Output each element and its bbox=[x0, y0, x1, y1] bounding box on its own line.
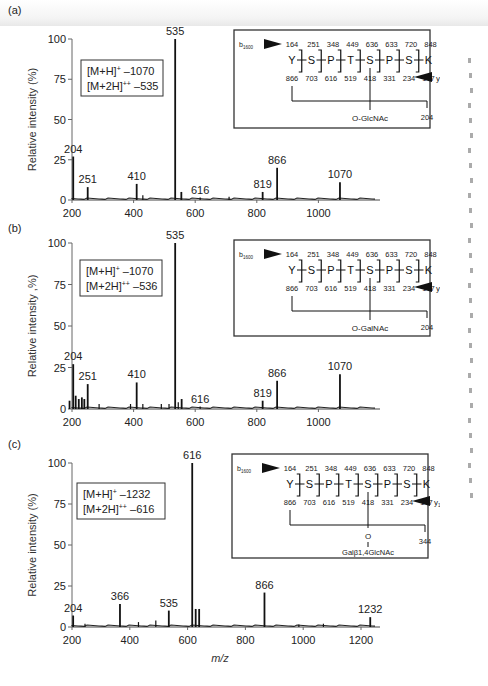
residue: S bbox=[364, 478, 371, 490]
b-ion-mass: 633 bbox=[383, 464, 396, 473]
y-series-label: y1600 bbox=[434, 498, 440, 508]
peak-label: 866 bbox=[255, 579, 273, 591]
residue: P bbox=[384, 478, 391, 490]
b-ion-mass: 636 bbox=[364, 464, 377, 473]
b-ion-mass: 251 bbox=[305, 464, 318, 473]
glycan-name: Galβ1,4GlcNAc bbox=[342, 548, 394, 557]
y-tick-label: 0 bbox=[60, 621, 66, 633]
x-tick-label: 400 bbox=[121, 634, 139, 646]
residue: Y bbox=[286, 478, 294, 490]
peak-label: 366 bbox=[111, 590, 129, 602]
residue: T bbox=[345, 478, 352, 490]
x-tick-label: 1000 bbox=[291, 634, 315, 646]
fragmentation-scheme: b1600Y164866S251703P348616T449519S636418… bbox=[232, 454, 435, 558]
baseline-trace bbox=[72, 625, 375, 626]
residue: K bbox=[423, 478, 431, 490]
y-ion-mass: 519 bbox=[342, 498, 355, 507]
residue: S bbox=[403, 478, 410, 490]
b-ion-mass: 348 bbox=[325, 464, 338, 473]
x-axis-label: m/z bbox=[211, 652, 229, 664]
y-tick-label: 75 bbox=[54, 498, 66, 510]
y-ion-mass: 703 bbox=[303, 498, 316, 507]
peak-label: 535 bbox=[160, 597, 178, 609]
y-ion-mass: 331 bbox=[381, 498, 394, 507]
b-ion-mass: 164 bbox=[284, 464, 297, 473]
y-ion-mass: 234 bbox=[401, 498, 414, 507]
residue: P bbox=[325, 478, 332, 490]
y-tick-label: 100 bbox=[48, 457, 66, 469]
residue: S bbox=[306, 478, 313, 490]
panel-label: (c) bbox=[8, 438, 21, 450]
b-ion-mass: 449 bbox=[344, 464, 357, 473]
x-tick-label: 600 bbox=[178, 634, 196, 646]
oxonium-ion-mass: 344 bbox=[419, 537, 432, 546]
panel-c: (c)0255075100Relative intensity (%)20040… bbox=[0, 0, 440, 686]
x-tick-label: 200 bbox=[63, 634, 81, 646]
y-tick-label: 50 bbox=[54, 539, 66, 551]
precursor-mh: [M+H]+ –1232 bbox=[83, 488, 150, 500]
y-ion-mass: 616 bbox=[323, 498, 336, 507]
b-ion-mass: 848 bbox=[422, 464, 435, 473]
x-tick-label: 800 bbox=[236, 634, 254, 646]
peak-label: 1232 bbox=[358, 603, 382, 615]
x-tick-label: 1200 bbox=[349, 634, 373, 646]
b-ion-mass: 720 bbox=[403, 464, 416, 473]
y-axis-label: Relative intensity (%) bbox=[26, 493, 38, 596]
peak-label: 204 bbox=[64, 602, 82, 614]
peak-label: 616 bbox=[183, 449, 201, 461]
y-ion-mass: 866 bbox=[284, 498, 297, 507]
glycan-linkage: O bbox=[365, 532, 371, 541]
precursor-m2h: [M+2H]++ –616 bbox=[83, 503, 154, 515]
spectrum-c: (c)0255075100Relative intensity (%)20040… bbox=[0, 0, 440, 686]
adjacent-page-text-strip bbox=[466, 30, 488, 500]
y-tick-label: 25 bbox=[54, 580, 66, 592]
